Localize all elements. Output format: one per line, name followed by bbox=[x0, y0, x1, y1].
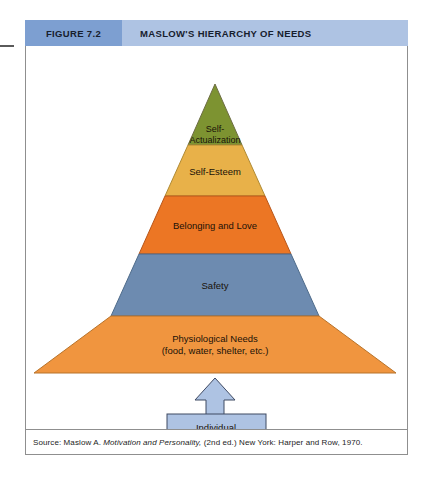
tier-label-self-esteem: Self-Esteem bbox=[189, 166, 241, 177]
page-edge-mark bbox=[0, 45, 14, 47]
tier-label-self-actualization-line1: Self- bbox=[206, 124, 225, 134]
source-suffix: (2nd ed.) New York: Harper and Row, 1970… bbox=[201, 438, 362, 447]
figure-number-block: FIGURE 7.2 bbox=[25, 20, 122, 46]
figure-header: FIGURE 7.2 MASLOW'S HIERARCHY OF NEEDS bbox=[25, 20, 408, 46]
tier-label-self-actualization-line2: Actualization bbox=[189, 135, 240, 145]
tier-label-physiological-needs-line2: (food, water, shelter, etc.) bbox=[162, 345, 269, 356]
individual-label: Individual bbox=[196, 422, 236, 429]
source-title-italic: Motivation and Personality, bbox=[103, 438, 201, 447]
figure-diagram-panel: Self- Actualization Self-Esteem Belongin… bbox=[25, 46, 408, 429]
figure-number-label: FIGURE 7.2 bbox=[46, 28, 101, 39]
pyramid-diagram: Self- Actualization Self-Esteem Belongin… bbox=[26, 46, 407, 429]
source-citation: Source: Maslow A. Motivation and Persona… bbox=[33, 438, 363, 447]
tier-label-physiological-needs-line1: Physiological Needs bbox=[172, 333, 258, 344]
figure-source-footer: Source: Maslow A. Motivation and Persona… bbox=[25, 429, 408, 455]
figure-card: FIGURE 7.2 MASLOW'S HIERARCHY OF NEEDS S… bbox=[25, 20, 408, 455]
figure-title-block: MASLOW'S HIERARCHY OF NEEDS bbox=[122, 20, 408, 46]
figure-title-label: MASLOW'S HIERARCHY OF NEEDS bbox=[140, 28, 311, 39]
tier-label-belonging-and-love: Belonging and Love bbox=[173, 220, 257, 231]
source-prefix: Source: Maslow A. bbox=[33, 438, 103, 447]
tier-label-safety: Safety bbox=[202, 280, 229, 291]
